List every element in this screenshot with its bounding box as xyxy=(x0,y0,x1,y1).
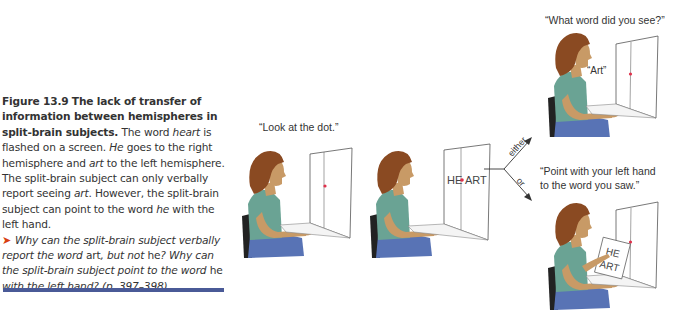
panel3-quote: “What word did you see?” xyxy=(545,14,665,26)
body-segment: art xyxy=(89,157,104,169)
branch-arrows: either or xyxy=(480,135,550,205)
branch-label-either: either xyxy=(506,135,528,158)
body-segment: He xyxy=(109,141,123,153)
body-segment: heart xyxy=(173,126,200,138)
flashed-word-he: HE xyxy=(447,174,462,186)
question-segment: , but not xyxy=(100,249,147,261)
panel3-illustration xyxy=(546,32,666,137)
arrow-down-icon xyxy=(524,193,532,201)
question-segment: he xyxy=(210,264,223,276)
panel2-illustration: HE ART xyxy=(368,128,498,258)
panel4-quote-line1: “Point with your left hand xyxy=(540,165,656,177)
branch-label-or: or xyxy=(515,176,528,189)
figure-label: Figure 13.9 xyxy=(2,95,69,107)
caption-body: The word heart is flashed on a screen. H… xyxy=(2,126,225,230)
question-segment: he xyxy=(147,249,160,261)
question-segment: art xyxy=(86,249,101,261)
panel4-quote-line2: to the word you saw.” xyxy=(540,179,639,191)
body-segment: art xyxy=(74,187,89,199)
review-question: Why can the split-brain subject verbally… xyxy=(2,234,223,292)
body-segment: he xyxy=(156,203,169,215)
fixation-dot xyxy=(323,184,326,187)
figure-caption: Figure 13.9 The lack of transfer of info… xyxy=(2,94,226,294)
caption-divider-rule xyxy=(3,288,224,292)
panel4-illustration: HE ART xyxy=(546,196,666,312)
panel1-illustration xyxy=(240,128,360,258)
arrow-right-icon: ➤ xyxy=(2,234,11,247)
body-segment: The word xyxy=(118,126,172,138)
